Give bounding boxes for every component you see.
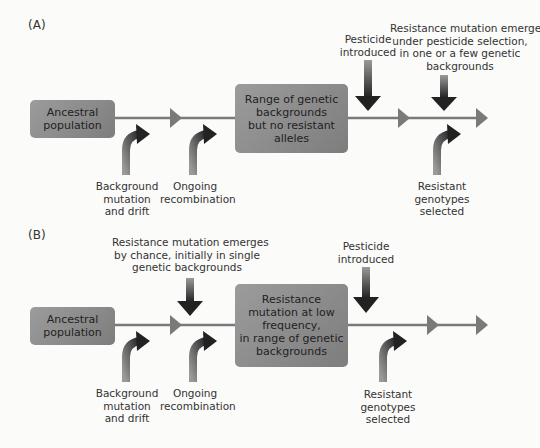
genetic-backgrounds-box-a: Range of genetic backgrounds but no resi… <box>235 84 348 153</box>
recombination-label-a: Ongoing recombination <box>160 180 230 205</box>
label-line: mutation <box>92 400 162 413</box>
label-line: in one or a few genetic <box>390 47 530 60</box>
label-line: selected <box>358 413 418 426</box>
label-line: Resistant <box>358 388 418 401</box>
pesticide-label-b: Pesticide introduced <box>336 240 396 265</box>
panel-a-label: (A) <box>28 18 46 32</box>
box-line: population <box>43 326 102 339</box>
label-line: recombination <box>160 193 230 206</box>
label-line: Ongoing <box>160 180 230 193</box>
label-line: genotypes <box>358 401 418 414</box>
flow-arrowhead <box>398 108 410 128</box>
resistant-genotypes-label-a: Resistant genotypes selected <box>412 180 472 218</box>
panel-b-label: (B) <box>28 228 46 242</box>
resistance-low-frequency-box-b: Resistance mutation at low frequency, in… <box>235 284 348 367</box>
label-line: Resistant <box>412 180 472 193</box>
label-line: genetic backgrounds <box>112 261 262 274</box>
resistant-genotypes-label-b: Resistant genotypes selected <box>358 388 418 426</box>
box-line: frequency, <box>239 319 343 332</box>
label-line: genotypes <box>412 193 472 206</box>
ancestral-population-box-b: Ancestralpopulation <box>30 307 115 345</box>
recombination-label-b: Ongoing recombination <box>160 387 230 412</box>
label-line: selected <box>412 205 472 218</box>
box-line: backgrounds <box>245 106 338 119</box>
label-line: introduced <box>336 253 396 266</box>
label-line: backgrounds <box>390 60 530 73</box>
background-mutation-label-a: Background mutation and drift <box>92 180 162 218</box>
box-line: population <box>43 119 102 132</box>
box-line: Ancestral <box>43 106 102 119</box>
box-line: Range of genetic <box>245 93 338 106</box>
label-line: Pesticide <box>338 33 398 46</box>
label-line: and drift <box>92 412 162 425</box>
label-line: Background <box>92 180 162 193</box>
box-line: but no resistant <box>245 119 338 132</box>
resistance-mutation-label-a: Resistance mutation emerges under pestic… <box>390 22 530 72</box>
label-line: Resistance mutation emerges <box>390 22 530 35</box>
box-line: Resistance <box>239 293 343 306</box>
label-line: Ongoing <box>160 387 230 400</box>
label-line: mutation <box>92 193 162 206</box>
ancestral-population-box-a: Ancestralpopulation <box>30 100 115 138</box>
label-line: introduced <box>338 46 398 59</box>
label-line: Resistance mutation emerges <box>112 236 262 249</box>
label-line: Background <box>92 387 162 400</box>
label-line: and drift <box>92 205 162 218</box>
box-line: mutation at low <box>239 306 343 319</box>
resistance-mutation-label-b: Resistance mutation emerges by chance, i… <box>112 236 262 274</box>
flow-arrowhead <box>170 108 182 128</box>
box-line: alleles <box>245 132 338 145</box>
label-line: under pesticide selection, <box>390 35 530 48</box>
label-line: recombination <box>160 400 230 413</box>
label-line: by chance, initially in single <box>112 249 262 262</box>
box-line: backgrounds <box>239 345 343 358</box>
label-line: Pesticide <box>336 240 396 253</box>
pesticide-label-a: Pesticide introduced <box>338 33 398 58</box>
box-line: in range of genetic <box>239 332 343 345</box>
flow-arrowhead <box>476 108 488 128</box>
box-line: Ancestral <box>43 313 102 326</box>
background-mutation-label-b: Background mutation and drift <box>92 387 162 425</box>
